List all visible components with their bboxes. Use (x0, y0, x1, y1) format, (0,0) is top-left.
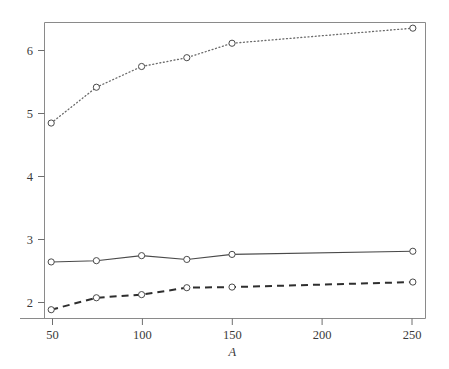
y-tick-3: 3 (27, 233, 45, 247)
x-tick-label-150: 150 (223, 328, 242, 342)
x-tick-100: 100 (133, 319, 152, 343)
plot-frame (20, 23, 426, 319)
data-point (93, 295, 99, 301)
data-point (184, 256, 190, 262)
data-point (48, 259, 54, 265)
data-point (139, 292, 145, 298)
x-tick-label-50: 50 (46, 328, 59, 342)
y-tick-label-6: 6 (27, 44, 33, 58)
y-tick-label-3: 3 (27, 233, 33, 247)
x-tick-200: 200 (313, 319, 332, 343)
series-dashed-series (48, 279, 416, 313)
data-point (48, 307, 54, 313)
line-chart: 6 5 4 3 2 50 (0, 0, 449, 369)
y-tick-label-4: 4 (27, 170, 34, 184)
chart-figure: 6 5 4 3 2 50 (0, 0, 449, 369)
data-point (93, 84, 99, 90)
y-tick-6: 6 (27, 44, 45, 58)
x-tick-label-200: 200 (313, 328, 332, 342)
x-axis-title: A (227, 345, 236, 359)
data-point (410, 279, 416, 285)
series-dotted-series (48, 25, 416, 126)
y-tick-4: 4 (27, 170, 45, 184)
data-point (229, 40, 235, 46)
frame-box (45, 23, 426, 319)
data-point (410, 248, 416, 254)
x-tick-label-100: 100 (133, 328, 152, 342)
data-series-layer (48, 25, 416, 313)
x-tick-label-250: 250 (403, 328, 422, 342)
x-tick-150: 150 (223, 319, 242, 343)
y-tick-label-5: 5 (27, 107, 33, 121)
data-point (410, 25, 416, 31)
data-point (139, 63, 145, 69)
data-point (93, 258, 99, 264)
data-point (139, 253, 145, 259)
data-point (229, 284, 235, 290)
x-tick-250: 250 (403, 319, 422, 343)
x-axis: 50 100 150 200 250 A (46, 319, 421, 360)
data-point (184, 285, 190, 291)
data-point (48, 120, 54, 126)
y-tick-2: 2 (27, 296, 45, 310)
data-point (184, 55, 190, 61)
y-axis: 6 5 4 3 2 (27, 44, 45, 310)
y-tick-5: 5 (27, 107, 45, 121)
x-tick-50: 50 (46, 319, 59, 343)
series-solid-series (48, 248, 416, 265)
y-tick-label-2: 2 (27, 296, 33, 310)
data-point (229, 251, 235, 257)
